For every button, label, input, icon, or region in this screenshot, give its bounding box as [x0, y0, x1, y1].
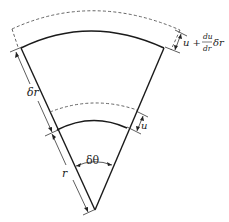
label-delta-r-suffix: δr	[213, 37, 225, 48]
label-u-plus: u +	[183, 37, 201, 48]
label-delta-r: δr	[27, 86, 40, 99]
inner-dashed-arc	[50, 103, 137, 112]
label-dr: dr	[203, 44, 212, 53]
label-delta-theta: δθ	[86, 154, 100, 167]
arrowheads	[15, 34, 182, 212]
label-r: r	[62, 167, 68, 180]
label-u-inner: u	[141, 120, 147, 131]
outer-dashed-left	[12, 29, 18, 47]
label-du: du	[203, 32, 213, 41]
right-radial-edge	[95, 48, 164, 210]
polar-element-diagram: δr r δθ u u + du dr δr	[0, 0, 229, 222]
outer-arc	[21, 31, 164, 48]
inner-arc	[57, 120, 127, 130]
outer-dashed-arc	[12, 11, 180, 30]
